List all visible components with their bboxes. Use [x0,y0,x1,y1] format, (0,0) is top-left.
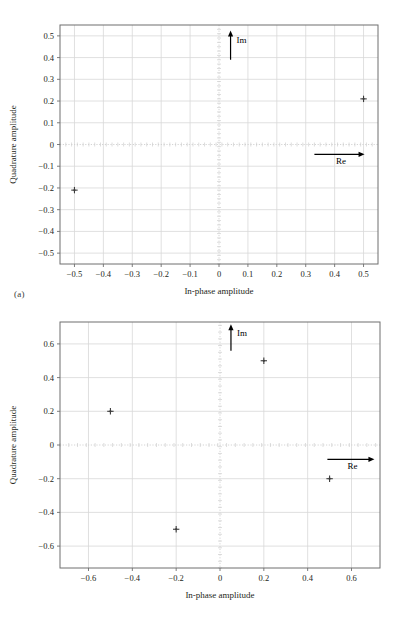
minor-ticks [60,325,376,568]
x-tick-label: −0.4 [96,269,112,279]
y-tick-label: −0.4 [39,226,55,236]
x-tick-label: 0.5 [358,269,369,279]
axis-annotations: ImRe [228,324,374,471]
x-tick-label: −0.5 [67,269,82,279]
x-tick-label: 0.2 [272,269,283,279]
x-tick-label: −0.2 [168,573,183,583]
y-tick-label: 0.2 [43,406,54,416]
marker-core [109,410,111,412]
y-tick-label: −0.2 [39,183,54,193]
im-arrow-label: Im [237,35,247,45]
minor-ticks [60,29,372,264]
x-axis-label: In-phase amplitude [185,590,254,600]
x-tick-label: 0.4 [302,573,313,583]
x-tick-label: −0.4 [125,573,141,583]
y-tick-labels: −0.6−0.4−0.200.20.40.6 [39,339,55,551]
data-point-marker [173,526,179,532]
x-tick-label: 0.2 [259,573,270,583]
figure-a: −0.5−0.4−0.3−0.2−0.100.10.20.30.40.5−0.5… [0,0,398,311]
y-tick-label: 0.6 [43,339,54,349]
x-tick-labels: −0.6−0.4−0.200.20.40.6 [81,573,357,583]
im-arrow-head [228,324,233,330]
y-tick-label: 0 [50,440,54,450]
x-tick-label: 0.1 [243,269,254,279]
re-arrow-head [368,457,374,462]
marker-core [175,528,177,530]
y-tick-labels: −0.5−0.4−0.3−0.2−0.100.10.20.30.40.5 [39,31,55,258]
x-tick-label: −0.3 [125,269,140,279]
figure-b: −0.6−0.4−0.200.20.40.6−0.6−0.4−0.200.20.… [0,311,398,622]
x-tick-label: 0.4 [329,269,340,279]
x-axis-label: In-phase amplitude [184,286,253,296]
figure-caption-a: (a) [14,289,25,299]
y-axis-label: Quadrature amplitude [8,406,18,485]
y-tick-label: 0.4 [43,53,54,63]
x-tick-label: 0 [217,269,221,279]
x-tick-label: −0.1 [182,269,197,279]
data-point-marker [261,358,267,364]
im-arrow-head [228,31,233,37]
x-tick-labels: −0.5−0.4−0.3−0.2−0.100.10.20.30.40.5 [67,269,369,279]
y-tick-label: 0.4 [43,373,54,383]
data-point-marker [107,408,113,414]
y-tick-label: 0.1 [43,118,54,128]
y-tick-label: −0.4 [39,507,55,517]
im-arrow-label: Im [237,328,247,338]
x-tick-label: 0.6 [346,573,357,583]
re-arrow-label: Re [347,461,357,471]
constellation-plot-a: −0.5−0.4−0.3−0.2−0.100.10.20.30.40.5−0.5… [0,0,398,311]
scatter-chart-b: −0.6−0.4−0.200.20.40.6−0.6−0.4−0.200.20.… [0,311,398,622]
y-tick-label: 0.5 [43,31,54,41]
y-tick-label: 0.3 [43,74,54,84]
x-tick-label: 0 [218,573,222,583]
y-tick-label: 0.2 [43,96,54,106]
data-point-marker [326,475,332,481]
constellation-plot-b: −0.6−0.4−0.200.20.40.6−0.6−0.4−0.200.20.… [0,311,398,622]
marker-core [362,98,364,100]
y-tick-label: −0.1 [39,161,54,171]
y-tick-label: −0.5 [39,248,54,258]
y-tick-label: 0 [50,140,54,150]
axis-annotations: ImRe [228,31,365,167]
marker-core [73,189,75,191]
re-arrow-label: Re [336,156,346,166]
y-tick-label: −0.6 [39,541,54,551]
x-tick-label: −0.2 [153,269,168,279]
x-tick-label: −0.6 [81,573,96,583]
y-tick-label: −0.2 [39,474,54,484]
zero-axes [60,25,378,264]
x-tick-label: 0.3 [300,269,311,279]
y-tick-label: −0.3 [39,205,54,215]
marker-core [263,360,265,362]
marker-core [328,478,330,480]
scatter-chart-a: −0.5−0.4−0.3−0.2−0.100.10.20.30.40.5−0.5… [0,0,398,311]
data-points [71,96,366,194]
y-axis-label: Quadrature amplitude [8,105,18,184]
